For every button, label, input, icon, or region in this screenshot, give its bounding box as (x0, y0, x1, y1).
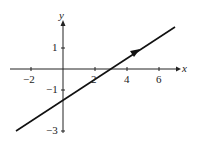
x-axis-label: x (182, 63, 187, 74)
x-axis-arrow-icon (176, 67, 181, 72)
x-tick-label: 4 (124, 74, 130, 85)
y-tick-label: 1 (52, 42, 58, 53)
x-tick-label: −2 (23, 74, 35, 85)
x-tick-label: 2 (91, 74, 97, 85)
plot (0, 0, 197, 141)
y-tick-label: −3 (46, 125, 58, 136)
y-tick-label: −1 (46, 84, 58, 95)
y-axis-label: y (59, 10, 64, 21)
x-tick-label: 6 (156, 74, 162, 85)
